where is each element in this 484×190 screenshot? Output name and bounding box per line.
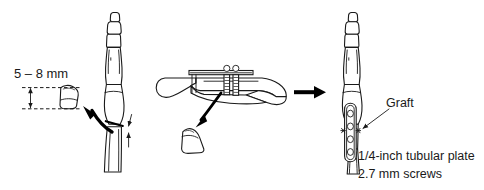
screws-label: 2.7 mm screws [358, 167, 442, 181]
clamp-pin-2 [233, 65, 239, 95]
panel-right: Graft 1/4-inch tubular plate 2.7 mm scre… [341, 13, 475, 182]
screw-hole-4 [347, 149, 353, 156]
tubular-plate [345, 103, 357, 162]
graft-label: Graft [386, 96, 414, 110]
panel-center [156, 65, 286, 153]
panel-left: 5 – 8 mm [14, 13, 132, 173]
screw-hole-2 [347, 123, 353, 130]
clamp-pin-1 [224, 65, 230, 94]
plate-label: 1/4-inch tubular plate [358, 149, 475, 163]
screw-hole-1 [347, 110, 353, 117]
illustration-canvas: 5 – 8 mm [0, 0, 484, 190]
bone-graft-center [182, 129, 204, 154]
transition-right-arrow [294, 86, 326, 98]
bone-vertical-left [104, 13, 124, 173]
surgical-illustration-figure: 5 – 8 mm [0, 0, 484, 190]
bone-horizontal-center [156, 78, 286, 105]
bone-graft-left [60, 85, 78, 108]
dimension-label: 5 – 8 mm [14, 66, 68, 81]
graft-leader-arrow [363, 109, 389, 128]
gap-marker-arrows [129, 115, 132, 148]
screw-hole-3 [347, 136, 353, 143]
